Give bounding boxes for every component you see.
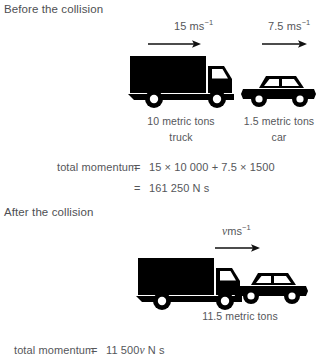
car-velocity-label: 7.5 ms−1 <box>268 20 310 32</box>
right-arrow-icon <box>262 38 308 50</box>
physics-momentum-diagram: Before the collision 15 ms−1 7.5 ms−1 <box>0 0 335 364</box>
right-arrow-icon <box>148 38 202 50</box>
truck-name-label: truck <box>169 131 192 143</box>
after-collision-heading: After the collision <box>4 206 93 218</box>
truck-icon <box>128 54 234 112</box>
after-equation-rhs-variable: v <box>139 344 144 356</box>
truck-velocity-value: 15 ms <box>174 20 204 32</box>
after-equation-lhs: total momentum <box>14 344 94 356</box>
before-equation-rhs-1: 15 × 10 000 + 7.5 × 1500 <box>149 161 275 173</box>
car-velocity-arrow <box>262 36 308 54</box>
truck-velocity-exponent: −1 <box>204 18 213 27</box>
combined-velocity-units: ms <box>227 225 242 237</box>
after-equation-equals: = <box>91 344 98 356</box>
car-silhouette <box>232 267 310 305</box>
before-equation-equals-2: = <box>134 182 141 194</box>
car-velocity-value: 7.5 ms <box>268 20 302 32</box>
car-icon <box>232 267 310 309</box>
truck-velocity-label: 15 ms−1 <box>174 20 213 32</box>
before-collision-heading: Before the collision <box>4 3 103 15</box>
car-silhouette <box>240 70 318 108</box>
before-equation-rhs-2: 161 250 N s <box>149 182 209 194</box>
combined-velocity-exponent: −1 <box>242 223 251 232</box>
truck-icon <box>136 256 242 314</box>
truck-silhouette <box>136 256 242 310</box>
car-velocity-exponent: −1 <box>302 18 311 27</box>
before-equation-equals-1: = <box>134 161 141 173</box>
car-name-label: car <box>272 131 287 143</box>
truck-velocity-arrow <box>148 36 202 54</box>
after-equation-rhs-prefix: 11 500 <box>106 344 139 356</box>
after-equation-rhs-suffix: N s <box>148 344 165 356</box>
after-equation-rhs: 11 500v N s <box>106 344 165 356</box>
combined-velocity-label: vms−1 <box>222 225 251 237</box>
truck-mass-label: 10 metric tons <box>147 115 214 127</box>
before-equation-lhs: total momentum <box>57 161 137 173</box>
car-icon <box>240 70 318 112</box>
car-mass-label: 1.5 metric tons <box>244 115 314 127</box>
truck-silhouette <box>128 54 234 108</box>
right-arrow-icon <box>215 242 261 254</box>
